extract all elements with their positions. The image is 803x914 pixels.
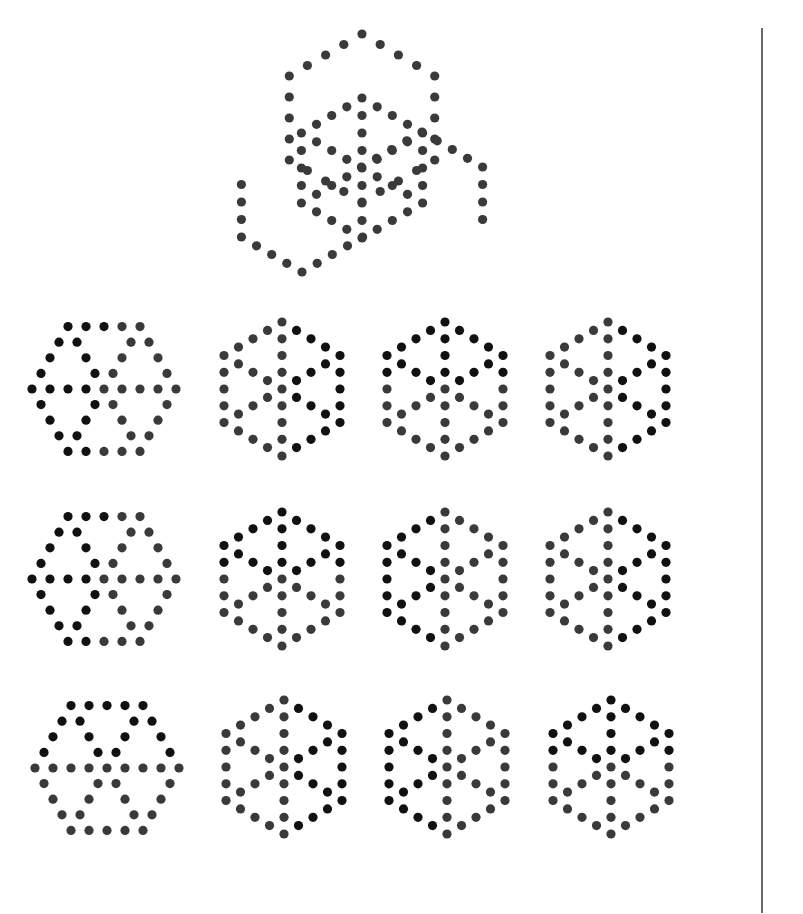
dot <box>411 401 420 410</box>
dot <box>221 796 230 805</box>
dot <box>397 600 406 609</box>
dot <box>248 368 257 377</box>
dot <box>297 198 306 207</box>
dot <box>111 779 120 788</box>
dot <box>577 813 586 822</box>
dot <box>337 762 346 771</box>
answer-option-9[interactable] <box>30 701 183 835</box>
dot <box>248 435 257 444</box>
dot <box>117 416 126 425</box>
dot <box>120 763 129 772</box>
answer-option-10[interactable] <box>221 695 346 838</box>
dot <box>635 779 644 788</box>
dot <box>292 376 301 385</box>
dot <box>426 583 435 592</box>
dot <box>384 746 393 755</box>
dot <box>250 779 259 788</box>
dot <box>308 746 317 755</box>
dot <box>277 558 286 567</box>
answer-option-8[interactable] <box>545 507 670 650</box>
dot <box>27 384 36 393</box>
dot <box>292 443 301 452</box>
dot <box>277 625 286 634</box>
dot <box>234 426 243 435</box>
answer-option-1[interactable] <box>27 322 180 456</box>
dot <box>219 418 228 427</box>
dot <box>162 369 171 378</box>
dot <box>574 435 583 444</box>
dot <box>498 368 507 377</box>
dot <box>560 616 569 625</box>
dot <box>337 746 346 755</box>
dot <box>664 779 673 788</box>
dot <box>471 712 480 721</box>
answer-option-12[interactable] <box>548 695 673 838</box>
dot <box>647 600 656 609</box>
dot <box>153 574 162 583</box>
dot <box>263 393 272 402</box>
dot <box>388 216 397 225</box>
dot <box>292 566 301 575</box>
dot <box>413 712 422 721</box>
dot <box>219 574 228 583</box>
dot <box>117 384 126 393</box>
answer-option-3[interactable] <box>382 317 507 460</box>
answer-option-6[interactable] <box>219 507 344 650</box>
dot <box>411 524 420 533</box>
dot <box>440 334 449 343</box>
dot <box>306 435 315 444</box>
dot <box>442 813 451 822</box>
dot <box>403 120 412 129</box>
answer-option-11[interactable] <box>384 695 509 838</box>
dot <box>545 384 554 393</box>
answer-option-5[interactable] <box>27 512 180 646</box>
dot <box>440 574 449 583</box>
dot <box>221 746 230 755</box>
dot <box>84 795 93 804</box>
dot <box>563 721 572 730</box>
answer-option-4[interactable] <box>545 317 670 460</box>
dot <box>117 543 126 552</box>
dot <box>308 712 317 721</box>
dot <box>647 616 656 625</box>
dot <box>411 558 420 567</box>
dot <box>108 400 117 409</box>
dot <box>45 574 54 583</box>
dot <box>498 384 507 393</box>
dot <box>153 543 162 552</box>
dot <box>560 533 569 542</box>
dot <box>335 368 344 377</box>
dot <box>357 128 366 137</box>
dot <box>455 393 464 402</box>
dot <box>560 549 569 558</box>
dot <box>373 172 382 181</box>
dot <box>618 326 627 335</box>
dot <box>153 353 162 362</box>
dot <box>54 528 63 537</box>
dot <box>236 737 245 746</box>
dot <box>144 621 153 630</box>
dot <box>469 591 478 600</box>
dot <box>81 322 90 331</box>
dot <box>248 591 257 600</box>
dot <box>603 641 612 650</box>
dot <box>120 732 129 741</box>
dot <box>500 729 509 738</box>
dot <box>277 334 286 343</box>
dot <box>120 795 129 804</box>
dot <box>327 146 336 155</box>
dot <box>403 137 412 146</box>
dot <box>84 701 93 710</box>
dot <box>219 558 228 567</box>
dot <box>357 29 366 38</box>
dot <box>120 826 129 835</box>
dot <box>384 762 393 771</box>
dot <box>647 359 656 368</box>
dot <box>440 558 449 567</box>
dot <box>426 326 435 335</box>
dot <box>135 384 144 393</box>
dot <box>574 524 583 533</box>
dot <box>277 435 286 444</box>
answer-option-7[interactable] <box>382 507 507 650</box>
answer-option-2[interactable] <box>219 317 344 460</box>
